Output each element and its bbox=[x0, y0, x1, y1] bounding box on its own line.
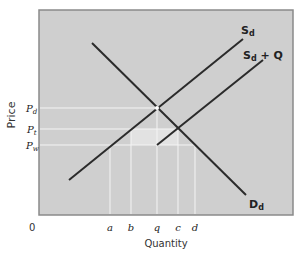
sd-plus-q-label: Sd + Q bbox=[243, 49, 283, 63]
origin-label: 0 bbox=[29, 222, 35, 233]
b-tick-label: b bbox=[128, 222, 134, 233]
c-tick-label: c bbox=[175, 222, 181, 233]
plot-panel bbox=[39, 10, 293, 215]
q-tick-label: q bbox=[154, 222, 160, 233]
d-tick-label: d bbox=[192, 222, 198, 233]
a-tick-label: a bbox=[107, 222, 113, 233]
x-axis-title: Quantity bbox=[144, 238, 187, 249]
shaded-region bbox=[131, 129, 178, 145]
pt-tick-label: Pt bbox=[26, 124, 37, 137]
domestic-equilibrium-point bbox=[155, 106, 159, 110]
supply-demand-diagram: Sd Sd + Q Dd Pd Pt Pw Price 0 a b q c d … bbox=[0, 0, 303, 254]
pd-tick-label: Pd bbox=[25, 103, 38, 116]
pw-tick-label: Pw bbox=[25, 140, 39, 153]
y-axis-title: Price bbox=[5, 101, 18, 128]
